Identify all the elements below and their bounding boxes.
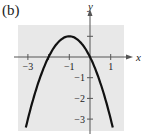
y-tick-label: −1: [74, 72, 85, 83]
y-axis-label: y: [87, 0, 93, 12]
x-tick-label: 1: [108, 61, 113, 72]
x-tick-label: −3: [23, 61, 34, 72]
y-tick-label: −2: [74, 93, 85, 104]
x-tick-label: −1: [64, 61, 75, 72]
plot-background: [18, 25, 124, 131]
y-tick-label: −3: [74, 114, 85, 125]
x-axis-arrow-icon: [126, 55, 133, 60]
x-axis-label: x: [135, 51, 141, 63]
parabola-graph: xy−3−11−1−2−3: [0, 0, 144, 138]
